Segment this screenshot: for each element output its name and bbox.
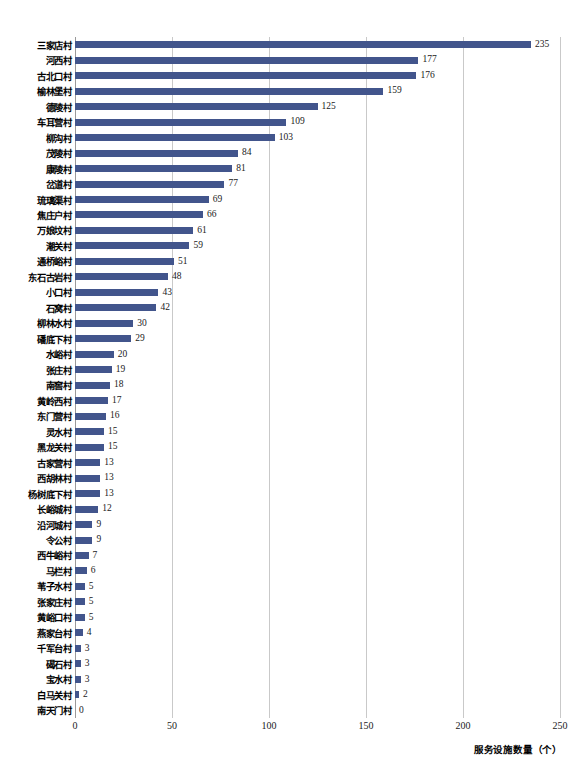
bar-value-label: 15 bbox=[108, 427, 118, 437]
bar-value-label: 5 bbox=[89, 613, 94, 623]
bar-value-label: 30 bbox=[137, 319, 147, 329]
bar-row: 9 bbox=[75, 532, 560, 547]
category-label: 柳林水村 bbox=[37, 316, 72, 331]
bar-value-label: 7 bbox=[93, 551, 98, 561]
category-label: 碣石村 bbox=[46, 656, 72, 671]
bar-value-label: 2 bbox=[83, 690, 88, 700]
bar-row: 16 bbox=[75, 408, 560, 423]
bar-value-label: 18 bbox=[114, 380, 124, 390]
bar bbox=[75, 320, 133, 327]
bar bbox=[75, 598, 85, 605]
category-label: 张庄村 bbox=[46, 362, 72, 377]
bar-value-label: 159 bbox=[387, 86, 401, 96]
bar bbox=[75, 366, 112, 373]
category-label: 令公村 bbox=[46, 532, 72, 547]
bar bbox=[75, 181, 224, 188]
category-label: 柳沟村 bbox=[46, 130, 72, 145]
bar bbox=[75, 304, 156, 311]
bar-row: 18 bbox=[75, 378, 560, 393]
bar bbox=[75, 583, 85, 590]
bar-row: 0 bbox=[75, 703, 560, 718]
bar-row: 19 bbox=[75, 362, 560, 377]
category-label: 焦庄户村 bbox=[37, 207, 72, 222]
bar-value-label: 61 bbox=[197, 226, 207, 236]
bar bbox=[75, 506, 98, 513]
bar-value-label: 9 bbox=[96, 520, 101, 530]
bar-row: 235 bbox=[75, 37, 560, 52]
x-tick-50: 50 bbox=[167, 720, 177, 731]
bar-row: 4 bbox=[75, 625, 560, 640]
bar-value-label: 48 bbox=[172, 272, 182, 282]
category-label: 榆林堡村 bbox=[37, 83, 72, 98]
bar bbox=[75, 258, 174, 265]
bar-row: 77 bbox=[75, 176, 560, 191]
category-label: 燕家台村 bbox=[37, 625, 72, 640]
bar bbox=[75, 490, 100, 497]
bar-value-label: 59 bbox=[193, 241, 203, 251]
bar-value-label: 6 bbox=[91, 566, 96, 576]
bar-row: 15 bbox=[75, 439, 560, 454]
bar bbox=[75, 72, 416, 79]
bar-row: 3 bbox=[75, 641, 560, 656]
category-label: 东石古岩村 bbox=[28, 269, 72, 284]
x-axis: 050100150200250 bbox=[75, 718, 560, 740]
category-label: 马栏村 bbox=[46, 563, 72, 578]
bar bbox=[75, 475, 100, 482]
bar-value-label: 66 bbox=[207, 210, 217, 220]
bar-row: 81 bbox=[75, 161, 560, 176]
bar bbox=[75, 134, 275, 141]
category-label: 沿河城村 bbox=[37, 517, 72, 532]
bar-row: 125 bbox=[75, 99, 560, 114]
bar bbox=[75, 629, 83, 636]
category-label: 石窝村 bbox=[46, 300, 72, 315]
bar-value-label: 77 bbox=[228, 179, 238, 189]
category-label: 黑龙关村 bbox=[37, 439, 72, 454]
bar-row: 69 bbox=[75, 192, 560, 207]
bar bbox=[75, 351, 114, 358]
bar-row: 61 bbox=[75, 223, 560, 238]
bar bbox=[75, 444, 104, 451]
category-label: 千军台村 bbox=[37, 641, 72, 656]
bar bbox=[75, 150, 238, 157]
gridline-250 bbox=[560, 37, 561, 718]
bar-row: 5 bbox=[75, 610, 560, 625]
bar-row: 7 bbox=[75, 548, 560, 563]
category-label: 宝水村 bbox=[46, 672, 72, 687]
bar-value-label: 125 bbox=[322, 102, 336, 112]
bar-row: 84 bbox=[75, 145, 560, 160]
bar-value-label: 84 bbox=[242, 148, 252, 158]
bar-value-label: 176 bbox=[420, 71, 434, 81]
bar-row: 29 bbox=[75, 331, 560, 346]
bar-row: 176 bbox=[75, 68, 560, 83]
bar bbox=[75, 335, 131, 342]
bar bbox=[75, 552, 89, 559]
bar bbox=[75, 382, 110, 389]
bar-value-label: 20 bbox=[118, 350, 128, 360]
category-label: 茂陵村 bbox=[46, 145, 72, 160]
category-label: 水峪村 bbox=[46, 347, 72, 362]
bar-value-label: 103 bbox=[279, 133, 293, 143]
bar-value-label: 81 bbox=[236, 164, 246, 174]
bar bbox=[75, 459, 100, 466]
category-label: 岔道村 bbox=[46, 176, 72, 191]
bar-row: 6 bbox=[75, 563, 560, 578]
bar-value-label: 109 bbox=[290, 117, 304, 127]
bar-value-label: 19 bbox=[116, 365, 126, 375]
x-tick-200: 200 bbox=[456, 720, 471, 731]
category-label: 黄岭西村 bbox=[37, 393, 72, 408]
bar-value-label: 43 bbox=[162, 288, 172, 298]
bar-row: 12 bbox=[75, 501, 560, 516]
x-tick-150: 150 bbox=[359, 720, 374, 731]
category-label: 张家庄村 bbox=[37, 594, 72, 609]
bar bbox=[75, 428, 104, 435]
bar bbox=[75, 614, 85, 621]
bar-row: 3 bbox=[75, 656, 560, 671]
bar bbox=[75, 165, 232, 172]
bar-value-label: 12 bbox=[102, 504, 112, 514]
bar bbox=[75, 273, 168, 280]
bar-row: 42 bbox=[75, 300, 560, 315]
bar bbox=[75, 57, 418, 64]
bar-row: 15 bbox=[75, 424, 560, 439]
bar-row: 30 bbox=[75, 316, 560, 331]
bar-value-label: 3 bbox=[85, 675, 90, 685]
